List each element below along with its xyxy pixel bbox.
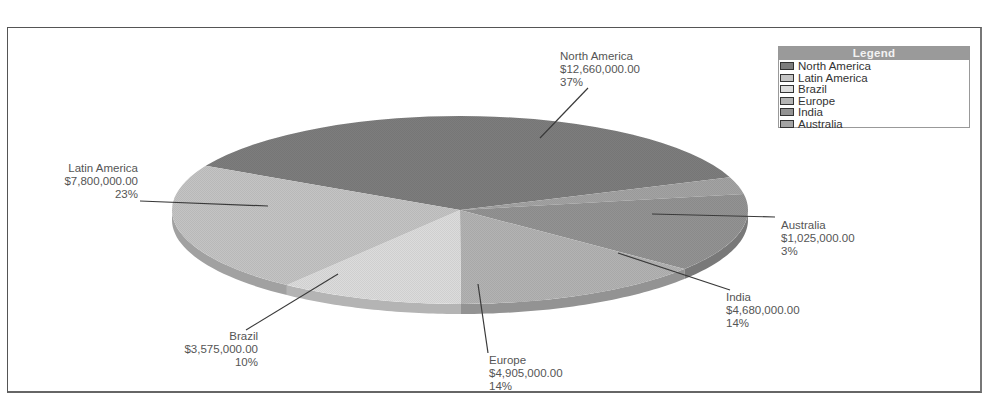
legend-item-australia: Australia	[779, 118, 969, 129]
label-value: $4,680,000.00	[726, 304, 800, 317]
legend-label: Latin America	[798, 72, 868, 84]
legend-label: Brazil	[798, 83, 827, 95]
label-north-america: North America $12,660,000.00 37%	[560, 50, 640, 89]
label-value: $7,800,000.00	[48, 175, 138, 188]
label-percent: 3%	[781, 245, 855, 258]
legend-label: India	[798, 106, 823, 118]
legend-item-north-america: North America	[779, 61, 969, 72]
label-latin-america: Latin America $7,800,000.00 23%	[48, 162, 138, 201]
legend-item-india: India	[779, 107, 969, 118]
label-australia: Australia $1,025,000.00 3%	[781, 219, 855, 258]
label-percent: 37%	[560, 76, 640, 89]
label-value: $12,660,000.00	[560, 63, 640, 76]
label-value: $1,025,000.00	[781, 232, 855, 245]
label-value: $4,905,000.00	[489, 367, 563, 380]
legend-label: Australia	[798, 118, 843, 130]
legend-item-brazil: Brazil	[779, 84, 969, 95]
legend-item-latin-america: Latin America	[779, 72, 969, 83]
legend-label: Europe	[798, 95, 835, 107]
label-name: Australia	[781, 219, 855, 232]
label-percent: 10%	[170, 356, 258, 369]
legend-swatch	[780, 74, 794, 82]
legend-item-europe: Europe	[779, 95, 969, 106]
legend-label: North America	[798, 60, 871, 72]
legend-swatch	[780, 62, 794, 70]
label-europe: Europe $4,905,000.00 14%	[489, 354, 563, 393]
label-value: $3,575,000.00	[170, 343, 258, 356]
pie-slices	[172, 116, 748, 304]
legend-swatch	[780, 97, 794, 105]
label-name: Europe	[489, 354, 563, 367]
legend-title: Legend	[779, 47, 969, 60]
label-name: India	[726, 291, 800, 304]
label-percent: 14%	[726, 317, 800, 330]
label-name: Latin America	[48, 162, 138, 175]
label-name: North America	[560, 50, 640, 63]
label-percent: 14%	[489, 380, 563, 393]
label-brazil: Brazil $3,575,000.00 10%	[170, 330, 258, 369]
label-name: Brazil	[170, 330, 258, 343]
legend-swatch	[780, 85, 794, 93]
label-percent: 23%	[48, 188, 138, 201]
legend-swatch	[780, 120, 794, 128]
legend: Legend North America Latin America Brazi…	[778, 46, 970, 128]
legend-swatch	[780, 108, 794, 116]
label-india: India $4,680,000.00 14%	[726, 291, 800, 330]
